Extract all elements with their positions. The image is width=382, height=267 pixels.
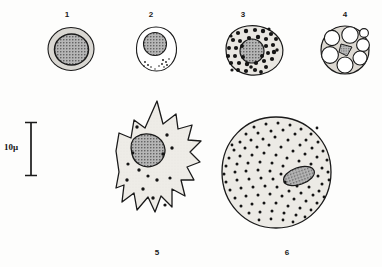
panel-label-6: 6 xyxy=(277,248,297,257)
panel-label-2: 2 xyxy=(141,10,161,19)
cell-5-spiny-stellate-cell xyxy=(116,101,201,212)
cell-3-granular-cell xyxy=(226,26,283,75)
scale-bar xyxy=(25,122,37,176)
panel-label-3: 3 xyxy=(233,10,253,19)
panel-label-1: 1 xyxy=(57,10,77,19)
cell-types-figure: 1 2 3 4 5 6 10μ xyxy=(0,0,382,267)
scale-bar-label: 10μ xyxy=(4,142,18,152)
cell-1-small-round-cell xyxy=(48,28,94,71)
cell-6-large-granular-round-cell xyxy=(222,117,331,228)
panel-label-5: 5 xyxy=(147,248,167,257)
cell-drawings-canvas xyxy=(0,0,382,267)
cell-4-vacuolated-cell xyxy=(321,26,369,74)
cell-2-egg-shaped-cell xyxy=(136,27,176,71)
panel-label-4: 4 xyxy=(335,10,355,19)
